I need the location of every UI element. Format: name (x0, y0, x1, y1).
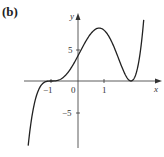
function-curve (28, 20, 144, 146)
x-axis-arrow-icon (155, 79, 162, 84)
y-axis-label: y (69, 11, 74, 21)
tick-label-neg5: −5 (62, 108, 72, 118)
y-axis (76, 13, 81, 148)
tick-label-1: 1 (102, 85, 107, 95)
x-axis-label: x (153, 84, 158, 94)
tick-label-neg1: −1 (43, 85, 53, 95)
function-plot: y x −1 0 1 5 −5 (0, 0, 164, 157)
y-axis-arrow-icon (76, 13, 81, 20)
tick-label-0: 0 (71, 85, 76, 95)
tick-label-5: 5 (68, 45, 73, 55)
